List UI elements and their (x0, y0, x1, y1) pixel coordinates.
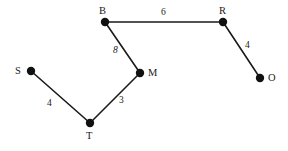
edge-weight-B-M: 8 (113, 46, 118, 56)
node-label-T: T (86, 131, 93, 142)
edge-R-O (223, 22, 260, 78)
node-dot-T (86, 119, 94, 127)
node-label-M: M (148, 68, 158, 79)
edge-weight-R-O: 4 (245, 41, 250, 51)
node-dot-S (27, 67, 35, 75)
node-dot-B (101, 18, 109, 26)
edge-weight-M-T: 3 (119, 96, 124, 106)
node-dot-O (256, 74, 264, 82)
node-dot-M (136, 69, 144, 77)
graph-canvas (0, 0, 288, 151)
edge-M-T (90, 73, 140, 123)
node-group (27, 18, 264, 127)
node-label-R: R (219, 6, 226, 17)
edge-weight-B-R: 6 (161, 8, 166, 18)
node-label-S: S (15, 66, 21, 77)
edge-T-S (31, 71, 90, 123)
edge-weight-T-S: 4 (47, 99, 52, 109)
node-dot-R (219, 18, 227, 26)
graph-diagram: B R S M O T 6 8 3 4 4 (0, 0, 288, 151)
edge-group (31, 22, 260, 123)
node-label-B: B (99, 6, 106, 17)
edge-B-M (105, 22, 140, 73)
node-label-O: O (268, 73, 276, 84)
